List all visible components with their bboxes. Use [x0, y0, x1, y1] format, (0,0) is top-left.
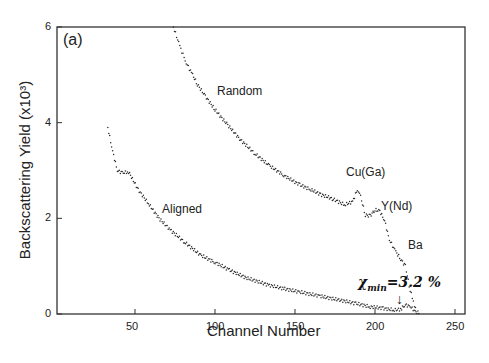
y-tick-label: 4 [45, 116, 51, 128]
x-tick-label: 150 [286, 320, 304, 332]
y-nd-label: Y(Nd) [381, 199, 412, 213]
cu-ga-label: Cu(Ga) [346, 165, 385, 179]
x-tick-label: 100 [206, 320, 224, 332]
chi-symbol: χ [358, 274, 367, 290]
panel-label: (a) [63, 31, 83, 49]
y-tick-label: 0 [45, 307, 51, 319]
chi-subscript: min [367, 283, 387, 293]
x-tick-label: 200 [366, 320, 384, 332]
y-tick-label: 6 [45, 20, 51, 32]
chart-canvas [0, 0, 489, 363]
chi-value: =3.2 % [387, 274, 441, 290]
aligned-label: Aligned [162, 202, 202, 216]
arrow-down-icon: ↓ [396, 291, 403, 307]
random-label: Random [217, 84, 262, 98]
chi-min-annotation: χmin=3.2 % [358, 274, 441, 293]
y-tick-label: 2 [45, 211, 51, 223]
y-axis-label: Backscattering Yield (x10³) [16, 81, 33, 259]
ba-label: Ba [408, 238, 423, 252]
x-tick-label: 50 [126, 320, 138, 332]
x-tick-label: 250 [446, 320, 464, 332]
